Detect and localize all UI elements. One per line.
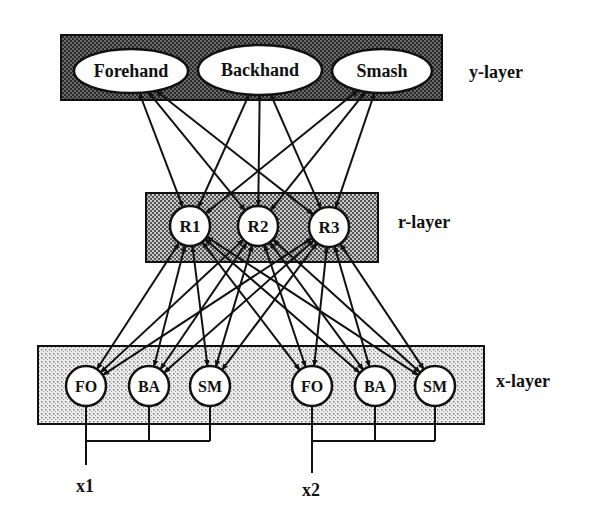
x-node-x1-fo: FO [66,366,106,406]
network-diagram: ForehandBackhandSmashR1R2R3FOBASMFOBASM … [0,0,598,524]
input-label-x1: x1 [76,476,94,496]
edge-backhand-r1 [198,95,249,208]
y-node-forehand: Forehand [74,49,188,93]
y-node-label: Smash [356,61,407,81]
x-node-x1-ba: BA [129,366,169,406]
r-node-r1: R1 [170,206,210,246]
x-node-x2-sm: SM [415,366,455,406]
x-node-label: FO [301,378,323,395]
y-node-label: Forehand [94,61,169,81]
x-node-x2-fo: FO [292,366,332,406]
x-node-x1-sm: SM [190,366,230,406]
x-node-label: FO [75,378,97,395]
edge-backhand-r3 [271,95,321,209]
r-node-label: R1 [180,217,201,236]
y-node-backhand: Backhand [198,45,322,95]
y-node-smash: Smash [332,49,432,93]
x-node-x2-ba: BA [355,366,395,406]
edge-backhand-r2 [258,95,259,206]
edge-smash-r3 [335,93,374,208]
y-node-label: Backhand [221,60,299,80]
x-node-label: BA [138,378,161,395]
x-node-label: BA [364,378,387,395]
x-layer-label: x-layer [496,371,550,391]
r-layer-label: r-layer [398,212,450,232]
x-node-label: SM [423,378,447,395]
edge-forehand-r1 [139,93,183,208]
x-node-label: SM [198,378,222,395]
r-node-label: R2 [248,217,269,236]
y-layer-label: y-layer [469,62,523,82]
r-node-r2: R2 [238,206,278,246]
r-node-r3: R3 [309,207,349,247]
input-label-x2: x2 [302,480,320,500]
r-node-label: R3 [319,218,340,237]
